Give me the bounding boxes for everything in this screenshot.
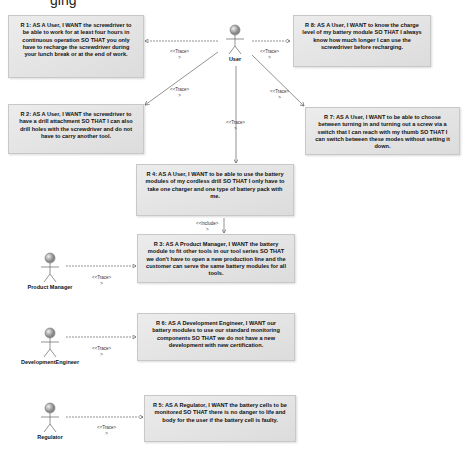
requirement-r7[interactable]: R 7: AS A User, I WANT to be able to cho…	[305, 107, 460, 155]
requirement-text: R 6: AS A Development Engineer, I WANT o…	[152, 320, 280, 348]
trace-label-r8: <<Trace>>	[260, 49, 279, 61]
stick-figure-icon	[215, 24, 255, 56]
actor-user[interactable]: User	[215, 24, 255, 56]
requirement-r2[interactable]: R 2: AS A User, I WANT the screwdriver t…	[8, 104, 144, 154]
include-label-r3: <<Include>>	[196, 221, 218, 233]
requirement-text: R 8: AS A User, I WANT to know the charg…	[302, 22, 421, 50]
actor-product-manager[interactable]: Product Manager	[30, 252, 70, 284]
actor-label: Regulator	[37, 434, 63, 440]
actor-label: User	[229, 56, 241, 62]
requirement-r1[interactable]: R 1: AS A User, I WANT the screwdriver t…	[8, 15, 144, 78]
stick-figure-icon	[30, 327, 70, 359]
requirement-text: R 1: AS A User, I WANT the screwdriver t…	[21, 22, 132, 57]
requirement-text: R 7: AS A User, I WANT to be able to cho…	[315, 114, 450, 149]
actor-label: Product Manager	[28, 284, 73, 290]
requirement-r5[interactable]: R 5: AS A Regulator, I WANT the battery …	[144, 395, 296, 442]
trace-label-r3: <<Trace>>	[92, 275, 111, 287]
actor-development-engineer[interactable]: DevelopmentEngineer	[30, 327, 70, 359]
requirement-r4[interactable]: R 4: AS A User, I WANT to be able to use…	[136, 164, 294, 216]
trace-label-r1: <<Trace>>	[170, 49, 189, 61]
trace-label-r5: <<Trace>>	[97, 425, 116, 437]
stick-figure-icon	[30, 252, 70, 284]
trace-label-r4: <<Trace>>	[226, 120, 245, 132]
requirement-text: R 2: AS A User, I WANT the screwdriver t…	[19, 111, 132, 139]
actor-label: DevelopmentEngineer	[21, 359, 79, 365]
requirement-text: R 5: AS A Regulator, I WANT the battery …	[153, 402, 287, 423]
trace-label-r2: <<Trace>>	[170, 87, 189, 99]
stick-figure-icon	[30, 402, 70, 434]
requirement-r6[interactable]: R 6: AS A Development Engineer, I WANT o…	[137, 313, 295, 361]
requirement-r3[interactable]: R 3: AS A Product Manager, I WANT the ba…	[137, 234, 295, 283]
requirement-r8[interactable]: R 8: AS A User, I WANT to know the charg…	[293, 15, 431, 67]
trace-label-r6: <<Trace>>	[92, 346, 111, 358]
requirement-text: R 4: AS A User, I WANT to be able to use…	[146, 171, 285, 199]
trace-label-r7: <<Trace>>	[270, 89, 289, 101]
actor-regulator[interactable]: Regulator	[30, 402, 70, 434]
requirement-text: R 3: AS A Product Manager, I WANT the ba…	[146, 241, 286, 276]
